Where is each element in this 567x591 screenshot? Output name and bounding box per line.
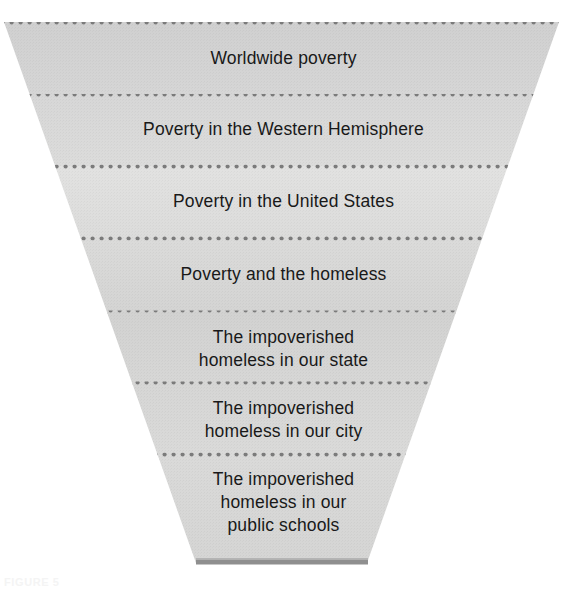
funnel-top-dotted-edge: [0, 21, 567, 26]
scan-artifact-figure-caption: FIGURE 5: [4, 576, 60, 588]
separator-4: [0, 311, 567, 316]
band-label-3: Poverty in the United States: [0, 190, 567, 213]
separator-5: [0, 382, 567, 387]
separator-3: [0, 236, 567, 241]
narrowing-topic-funnel: Worldwide poverty Poverty in the Western…: [0, 0, 567, 591]
band-label-1: Worldwide poverty: [0, 47, 567, 70]
band-label-4: Poverty and the homeless: [0, 263, 567, 286]
funnel-base-bar-highlight: [196, 558, 368, 560]
band-label-2: Poverty in the Western Hemisphere: [0, 118, 567, 141]
band-label-7: The impoverished homeless in our public …: [0, 468, 567, 537]
funnel-base-bar: [196, 560, 368, 565]
separator-6: [0, 453, 567, 458]
figure-canvas: Worldwide poverty Poverty in the Western…: [0, 0, 567, 591]
band-label-6: The impoverished homeless in our city: [0, 397, 567, 443]
band-label-5: The impoverished homeless in our state: [0, 326, 567, 372]
separator-1: [0, 94, 567, 99]
separator-2: [0, 165, 567, 170]
